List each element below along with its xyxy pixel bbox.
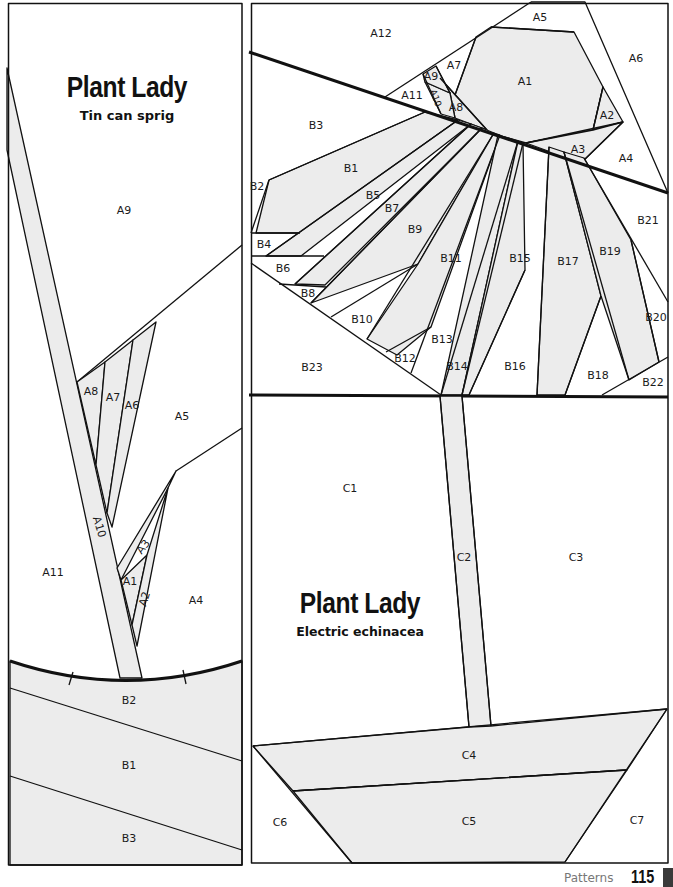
pattern-diagram: A9 A8 A7 A6 A5 A10 A3 A1 A2 A11 A4 B2 B1… (0, 0, 673, 887)
label-right-B22: B22 (642, 376, 664, 389)
label-right-A1: A1 (518, 75, 533, 88)
label-left-A4: A4 (189, 594, 204, 607)
label-right-C2: C2 (457, 551, 472, 564)
label-right-B17: B17 (557, 255, 579, 268)
label-right-B8: B8 (301, 287, 316, 300)
label-right-B12: B12 (394, 352, 416, 365)
label-right-A7: A7 (447, 59, 462, 72)
label-left-B2: B2 (122, 694, 137, 707)
label-right-A3: A3 (571, 143, 586, 156)
label-left-B1: B1 (122, 759, 137, 772)
label-right-A6: A6 (629, 52, 644, 65)
label-right-C6: C6 (273, 816, 288, 829)
label-right-B9: B9 (408, 223, 423, 236)
label-right-B18: B18 (587, 369, 609, 382)
label-right-C3: C3 (569, 551, 584, 564)
label-right-B15: B15 (509, 252, 531, 265)
label-right-A12: A12 (370, 27, 392, 40)
label-right-B5: B5 (366, 189, 381, 202)
label-right-B3: B3 (309, 119, 324, 132)
label-left-A7: A7 (106, 391, 121, 404)
label-right-B11: B11 (440, 252, 462, 265)
label-right-B6: B6 (276, 262, 291, 275)
label-left-A11: A11 (42, 566, 64, 579)
left-title: Plant Lady (66, 70, 189, 104)
label-right-B2: B2 (250, 180, 265, 193)
left-pattern (7, 4, 242, 866)
footer-section-label: Patterns (564, 871, 613, 885)
label-right-C1: C1 (343, 482, 358, 495)
label-right-A2: A2 (600, 109, 615, 122)
label-left-A1: A1 (123, 575, 138, 588)
label-right-A11: A11 (401, 89, 423, 102)
label-right-B19: B19 (599, 245, 621, 258)
right-subtitle: Electric echinacea (285, 624, 435, 639)
label-right-B21: B21 (637, 214, 659, 227)
label-right-B20: B20 (645, 311, 667, 324)
label-right-C5: C5 (462, 815, 477, 828)
label-left-B3: B3 (122, 832, 137, 845)
label-right-A4: A4 (619, 152, 634, 165)
label-right-B4: B4 (257, 238, 272, 251)
page-number: 115 (631, 867, 654, 887)
label-right-B14: B14 (446, 360, 468, 373)
label-right-B23: B23 (301, 361, 323, 374)
label-right-B16: B16 (504, 360, 526, 373)
label-right-B7: B7 (385, 202, 400, 215)
label-left-A6: A6 (125, 399, 140, 412)
label-right-B13: B13 (431, 333, 453, 346)
right-title: Plant Lady (299, 586, 422, 620)
label-left-A9: A9 (117, 204, 132, 217)
label-right-A9: A9 (424, 70, 439, 83)
page-edge-tab (663, 868, 673, 887)
label-right-C4: C4 (462, 749, 477, 762)
label-right-A8: A8 (449, 101, 464, 114)
label-left-A5: A5 (175, 410, 190, 423)
label-left-A8: A8 (84, 385, 99, 398)
left-subtitle: Tin can sprig (52, 108, 202, 123)
label-right-B1: B1 (344, 162, 359, 175)
label-right-B10: B10 (351, 313, 373, 326)
label-right-A5: A5 (533, 11, 548, 24)
label-right-C7: C7 (630, 814, 645, 827)
